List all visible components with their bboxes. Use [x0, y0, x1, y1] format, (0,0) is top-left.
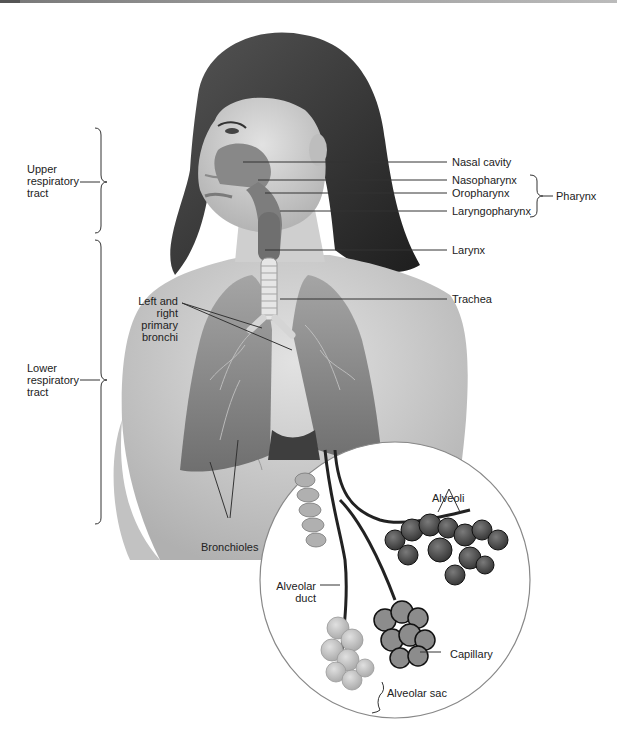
label-line: tract	[27, 386, 79, 398]
label-line: respiratory	[27, 175, 79, 187]
label-line: Lower	[27, 362, 79, 374]
oropharynx-label: Oropharynx	[452, 187, 509, 199]
alveolar-sac-label: Alveolar sac	[387, 687, 447, 699]
upper-respiratory-tract-label: Upper respiratory tract	[27, 163, 79, 199]
label-line: right	[130, 307, 178, 319]
capillary-label: Capillary	[450, 648, 493, 660]
label-line: respiratory	[27, 374, 79, 386]
label-line: Alveolar	[270, 580, 316, 592]
nasal-cavity-label: Nasal cavity	[452, 156, 511, 168]
label-line: duct	[270, 592, 316, 604]
upper-tract-bracket	[95, 128, 107, 233]
primary-bronchi-label: Left and right primary bronchi	[130, 295, 178, 343]
nasopharynx-label: Nasopharynx	[452, 174, 517, 186]
respiratory-illustration	[0, 0, 617, 742]
alveoli-label: Alveoli	[432, 492, 464, 504]
lower-tract-bracket	[95, 240, 107, 524]
lower-respiratory-tract-label: Lower respiratory tract	[27, 362, 79, 398]
label-line: tract	[27, 187, 79, 199]
label-line: Left and	[130, 295, 178, 307]
pharynx-bracket	[530, 175, 543, 217]
label-line: Upper	[27, 163, 79, 175]
larynx-label: Larynx	[452, 244, 485, 256]
label-line: bronchi	[130, 331, 178, 343]
trachea-label: Trachea	[452, 293, 492, 305]
laryngopharynx-label: Laryngopharynx	[452, 205, 531, 217]
label-line: primary	[130, 319, 178, 331]
pharynx-label: Pharynx	[556, 190, 596, 202]
bronchioles-label: Bronchioles	[201, 541, 258, 553]
alveolar-duct-label: Alveolar duct	[270, 580, 316, 604]
